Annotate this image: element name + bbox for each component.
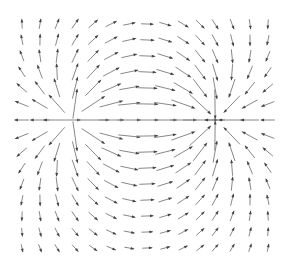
vector-arrow-shaft: [85, 144, 100, 160]
arrowhead-icon: [21, 249, 24, 253]
arrowhead-icon: [184, 229, 188, 232]
arrowhead-icon: [119, 137, 123, 140]
arrowhead-icon: [151, 39, 155, 42]
arrowhead-icon: [215, 194, 218, 198]
arrowhead-icon: [152, 182, 156, 185]
arrowhead-icon: [248, 59, 251, 63]
arrowhead-icon: [76, 173, 79, 177]
vector-arrow-shaft: [224, 96, 240, 113]
arrowhead-icon: [172, 88, 176, 91]
arrowhead-icon: [240, 119, 244, 122]
vector-arrow-shaft: [85, 80, 100, 96]
vector-arrow-shaft: [72, 141, 77, 162]
arrowhead-icon: [249, 243, 252, 247]
arrowhead-icon: [215, 77, 218, 81]
arrowhead-icon: [230, 77, 233, 81]
arrowhead-icon: [56, 188, 59, 192]
arrowhead-icon: [204, 119, 208, 122]
arrowhead-icon: [76, 34, 79, 38]
arrowhead-icon: [185, 213, 189, 216]
arrowhead-icon: [76, 202, 79, 206]
arrowhead-icon: [20, 202, 23, 206]
arrowhead-icon: [267, 211, 270, 215]
arrowhead-icon: [131, 247, 135, 250]
arrowhead-icon: [20, 186, 23, 190]
arrowhead-icon: [215, 59, 218, 63]
arrowhead-icon: [168, 40, 172, 43]
vector-arrow-shaft: [49, 127, 65, 144]
arrowhead-icon: [267, 25, 270, 29]
arrowhead-icon: [215, 159, 218, 163]
arrowhead-icon: [55, 63, 58, 67]
arrowhead-icon: [249, 194, 252, 198]
arrowhead-icon: [56, 203, 59, 207]
vector-arrow-shaft: [174, 83, 192, 94]
vector-arrow-shaft: [49, 95, 65, 112]
arrowhead-icon: [242, 131, 246, 134]
arrowhead-icon: [169, 181, 173, 184]
arrowhead-icon: [76, 187, 79, 191]
vector-arrow-shaft: [72, 77, 77, 98]
vector-arrow-shaft: [119, 150, 138, 153]
arrowhead-icon: [57, 248, 60, 252]
arrowhead-icon: [56, 48, 59, 52]
vector-arrow-shaft: [82, 129, 105, 144]
vector-arrow-shaft: [174, 147, 192, 158]
arrowhead-icon: [39, 233, 42, 237]
arrowhead-icon: [249, 42, 252, 46]
arrowhead-icon: [114, 36, 118, 39]
arrowhead-icon: [39, 218, 42, 222]
arrowhead-icon: [75, 148, 78, 152]
arrowhead-icon: [112, 247, 116, 250]
arrowhead-icon: [39, 202, 42, 206]
arrowhead-icon: [39, 34, 42, 38]
vector-arrow-shaft: [119, 86, 138, 89]
arrowhead-icon: [132, 199, 136, 202]
arrowhead-icon: [173, 104, 177, 107]
arrowhead-icon: [38, 49, 41, 53]
arrowhead-icon: [189, 146, 193, 149]
arrowhead-icon: [232, 227, 235, 231]
arrowhead-icon: [267, 227, 270, 231]
arrowhead-icon: [115, 185, 119, 188]
arrowhead-icon: [185, 24, 189, 27]
arrowhead-icon: [261, 133, 265, 136]
arrowhead-icon: [232, 210, 235, 214]
arrowhead-icon: [185, 196, 189, 199]
arrowhead-icon: [167, 230, 171, 233]
arrowhead-icon: [150, 215, 154, 218]
arrowhead-icon: [132, 22, 136, 25]
arrowhead-icon: [76, 49, 79, 53]
arrowhead-icon: [231, 193, 234, 197]
arrowhead-icon: [15, 136, 19, 139]
arrowhead-icon: [116, 67, 120, 70]
arrowhead-icon: [168, 214, 172, 217]
arrowhead-icon: [172, 149, 176, 152]
arrowhead-icon: [15, 101, 19, 104]
arrowhead-icon: [191, 132, 195, 135]
arrowhead-icon: [21, 233, 24, 237]
arrowhead-icon: [20, 34, 23, 38]
arrowhead-icon: [229, 94, 232, 98]
arrowhead-icon: [55, 173, 58, 177]
arrowhead-icon: [39, 18, 42, 22]
arrowhead-icon: [232, 26, 235, 30]
arrowhead-icon: [169, 56, 173, 59]
arrowhead-icon: [119, 100, 123, 103]
arrowhead-icon: [76, 63, 79, 67]
arrowhead-icon: [168, 198, 172, 201]
arrowhead-icon: [154, 150, 158, 153]
arrowhead-icon: [117, 83, 121, 86]
arrowhead-icon: [249, 227, 252, 231]
arrowhead-icon: [267, 243, 270, 247]
arrowhead-icon: [115, 52, 119, 55]
arrowhead-icon: [189, 91, 193, 94]
arrowhead-icon: [231, 244, 234, 248]
arrowhead-icon: [266, 42, 269, 46]
vector-arrow-shaft: [100, 133, 123, 139]
arrowhead-icon: [173, 134, 177, 137]
vector-field-plot: [0, 0, 290, 273]
arrowhead-icon: [215, 42, 218, 46]
arrowhead-icon: [229, 142, 232, 146]
arrowhead-icon: [247, 75, 250, 79]
